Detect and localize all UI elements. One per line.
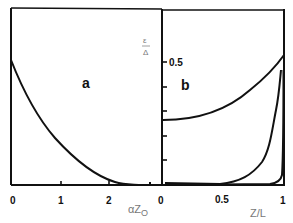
panel-b-label: b	[181, 77, 190, 93]
x-axis-label-b: Z/L	[250, 207, 266, 219]
tick-b-1: 1	[280, 195, 286, 206]
svg-text:ε: ε	[143, 36, 147, 45]
chart-figure: a b 0 1 2 0 0.5 1 0.5 αZO Z/L ε Δ	[0, 0, 293, 223]
svg-text:Δ: Δ	[143, 48, 149, 57]
x-axis-label-a: αZO	[128, 203, 148, 218]
tick-b-05: 0.5	[215, 194, 229, 205]
tick-y-05: 0.5	[169, 57, 183, 68]
tick-b-0: 0	[158, 195, 164, 206]
tick-a-1: 1	[58, 195, 64, 206]
panel-b-frame	[162, 9, 284, 186]
panel-a-frame	[11, 8, 162, 185]
panel-a-label: a	[82, 75, 90, 91]
y-axis-label: ε Δ	[142, 36, 150, 57]
tick-a-2: 2	[106, 195, 112, 206]
tick-a-0: 0	[10, 195, 16, 206]
